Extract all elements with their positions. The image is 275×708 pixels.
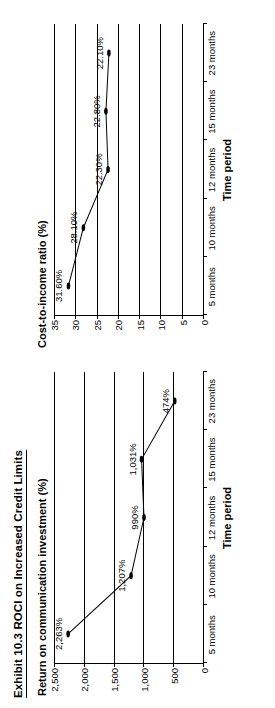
y-axis-tick <box>139 315 140 319</box>
x-axis-labels: 5 months10 months12 months15 months23 mo… <box>204 24 220 316</box>
gridline <box>84 372 85 663</box>
y-axis-tick <box>54 315 55 319</box>
chart-title: Return on communication investment (%) <box>36 372 48 696</box>
data-point-label: 474% <box>160 389 171 413</box>
data-point-marker <box>82 224 86 231</box>
x-axis-tick-label: 5 months <box>206 267 217 306</box>
plot-row: 05101520253035 31.60%28.10%22.30%22.80%2… <box>54 24 204 350</box>
x-axis-tick-label: 23 months <box>206 379 217 423</box>
gridline <box>143 372 144 663</box>
rotated-exhibit-canvas: Exhibit 10.3 ROCI on Increased Credit Li… <box>0 0 275 708</box>
gridline <box>182 24 183 315</box>
x-axis-tick-label: 12 months <box>206 496 217 540</box>
data-point-marker <box>107 50 111 57</box>
x-axis-tick-label: 10 months <box>206 554 217 598</box>
data-series-line <box>54 24 203 315</box>
x-axis-labels: 5 months10 months12 months15 months23 mo… <box>204 372 220 664</box>
x-axis-tick-label: 15 months <box>206 437 217 481</box>
data-point-label: 1,031% <box>127 443 138 475</box>
y-axis-tick-label: 15 <box>134 320 145 331</box>
y-axis-labels: 05001,0001,5002,0002,500 <box>54 664 204 698</box>
plot-row: 05001,0001,5002,0002,500 2,263%1,207%990… <box>54 372 204 698</box>
y-axis-tick-label: 10 <box>156 320 167 331</box>
y-axis-tick-label: 0 <box>199 668 210 673</box>
gridline <box>173 372 174 663</box>
data-point-label: 31.60% <box>53 270 64 302</box>
data-point-marker <box>106 166 110 173</box>
y-axis-tick <box>75 315 76 319</box>
x-axis-tick-label: 10 months <box>206 206 217 250</box>
exhibit-title: Exhibit 10.3 ROCI on Increased Credit Li… <box>12 450 27 698</box>
x-axis-tick-label: 23 months <box>206 31 217 75</box>
data-point-label: 22.10% <box>94 37 105 69</box>
x-axis-tick-label: 15 months <box>206 89 217 133</box>
gridline <box>75 24 76 315</box>
y-axis-tick <box>160 315 161 319</box>
y-axis-tick <box>173 663 174 667</box>
data-point-label: 22.80% <box>91 95 102 127</box>
y-axis-tick-label: 500 <box>169 668 180 684</box>
data-point-label: 2,263% <box>53 618 64 650</box>
y-axis-tick-label: 1,500 <box>109 668 120 692</box>
x-axis-tick-label: 12 months <box>206 148 217 192</box>
y-axis-tick <box>143 663 144 667</box>
gridline <box>139 24 140 315</box>
y-axis-tick <box>84 663 85 667</box>
chart-return-on-communication-investment: Return on communication investment (%) 0… <box>36 372 233 698</box>
gridline <box>160 24 161 315</box>
y-axis-tick <box>118 315 119 319</box>
gridline <box>118 24 119 315</box>
y-axis-tick-label: 35 <box>49 320 60 331</box>
data-point-label: 990% <box>129 505 140 529</box>
y-axis-tick-label: 25 <box>91 320 102 331</box>
y-axis-tick-label: 2,500 <box>49 668 60 692</box>
plot-area: 31.60%28.10%22.30%22.80%22.10% <box>54 24 204 316</box>
y-axis-tick <box>114 663 115 667</box>
plot-area: 2,263%1,207%990%1,031%474% <box>54 372 204 664</box>
y-axis-labels: 05101520253035 <box>54 316 204 350</box>
y-axis-tick <box>97 315 98 319</box>
y-axis-tick-label: 30 <box>70 320 81 331</box>
x-axis-title: Time period <box>221 24 233 316</box>
y-axis-tick-label: 2,000 <box>79 668 90 692</box>
y-axis-tick-label: 1,000 <box>139 668 150 692</box>
charts-container: Return on communication investment (%) 0… <box>36 6 233 698</box>
data-point-marker <box>66 630 70 637</box>
data-point-marker <box>104 108 108 115</box>
data-point-label: 28.10% <box>68 212 79 244</box>
y-axis-tick-label: 5 <box>177 320 188 325</box>
y-axis-tick <box>182 315 183 319</box>
data-point-marker <box>67 282 71 289</box>
data-point-label: 22.30% <box>93 153 104 185</box>
data-point-label: 1,207% <box>116 560 127 592</box>
data-point-marker <box>129 572 133 579</box>
x-axis-title: Time period <box>221 372 233 664</box>
gridline <box>114 372 115 663</box>
chart-title: Cost-to-income ratio (%) <box>36 24 48 348</box>
chart-cost-to-income-ratio: Cost-to-income ratio (%) 05101520253035 … <box>36 24 233 350</box>
x-axis-tick-label: 5 months <box>206 615 217 654</box>
y-axis-tick-label: 0 <box>199 320 210 325</box>
exhibit-figure: Exhibit 10.3 ROCI on Increased Credit Li… <box>0 0 275 708</box>
y-axis-tick-label: 20 <box>113 320 124 331</box>
y-axis-tick <box>54 663 55 667</box>
